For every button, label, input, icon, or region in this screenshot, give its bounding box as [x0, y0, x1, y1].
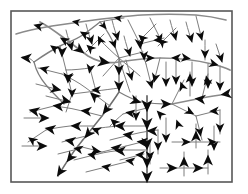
diagram-border	[11, 11, 232, 182]
figure-root	[0, 0, 248, 194]
network-diagram	[0, 0, 248, 194]
